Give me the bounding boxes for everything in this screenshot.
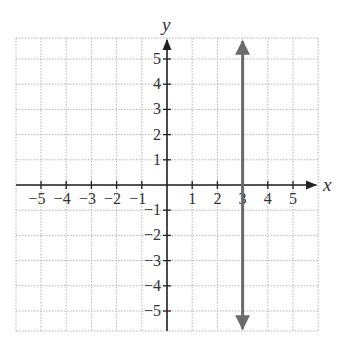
y-axis-label: y [160,14,171,35]
x-tick-label: 4 [264,190,272,207]
x-tick-label: −3 [79,190,96,207]
y-tick-label: −4 [144,277,161,294]
y-tick-label: −1 [144,201,161,218]
x-tick-label: −4 [54,190,71,207]
x-axis-label: x [322,174,332,195]
x-tick-label: −2 [104,190,121,207]
coordinate-plane: −5−4−3−2−112345 54321−1−2−3−4−5 x y [0,0,340,339]
x-tick-label: 1 [188,190,196,207]
y-tick-label: 3 [153,100,161,117]
y-tick-label: −3 [144,252,161,269]
y-tick-label: −5 [144,302,161,319]
x-tick-label: −5 [28,190,45,207]
y-tick-label: 2 [153,126,161,143]
x-tick-label: 5 [289,190,297,207]
y-tick-label: 5 [153,50,161,67]
x-tick-label: 2 [213,190,221,207]
y-tick-label: 1 [153,151,161,168]
y-tick-label: −2 [144,226,161,243]
y-tick-label: 4 [153,75,161,92]
x-tick-labels: −5−4−3−2−112345 [28,190,297,207]
